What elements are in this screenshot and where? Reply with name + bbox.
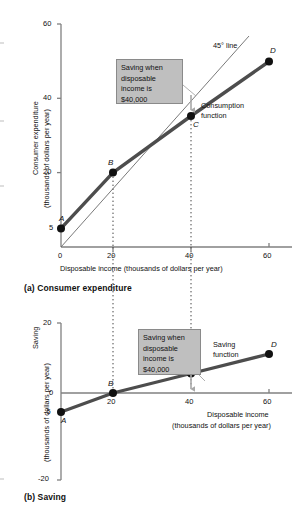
panel-a-consumption-function-label-line2: function: [201, 111, 227, 121]
panel-b-point-label-D: D: [271, 340, 277, 349]
panel-a-annotation-line4: $40,000: [121, 95, 182, 106]
panel-a-xtick-0: 0: [58, 251, 62, 260]
panel-b-saving-function-label-line1: Saving: [213, 340, 235, 350]
panel-b-annotation-box: Saving when disposable income is $40,000: [138, 329, 201, 375]
panel-a-ytick-20: 20: [43, 167, 51, 176]
panel-b-xtick-40: 40: [185, 397, 193, 406]
panel-b-ytick-minus5: -5: [44, 407, 51, 416]
panel-b-point-A: [57, 408, 65, 416]
panel-a-y-axis-label-line2: (thousands of dollars per year): [42, 109, 51, 208]
panel-b-xtick-60: 60: [263, 397, 271, 406]
panel-a-ytick-40: 40: [43, 93, 51, 102]
panel-a-xtick-40: 40: [185, 251, 193, 260]
panel-b-point-D: [265, 350, 273, 358]
panel-a-point-A: [57, 224, 65, 232]
figure-consumption-and-saving: Consumer expenditure (thousands of dolla…: [0, 0, 301, 515]
panel-b-saving-function-label-line2: function: [213, 350, 239, 360]
panel-b-point-label-B: B: [108, 379, 113, 388]
panel-a-annotation-line3: income is: [121, 84, 182, 95]
panel-b-annotation-line4: $40,000: [143, 365, 200, 376]
panel-a-point-B: [109, 169, 117, 177]
panel-a-xtick-20: 20: [107, 251, 115, 260]
panel-a-annotation-box: Saving when disposable income is $40,000: [116, 59, 183, 104]
panel-a-point-label-D: D: [270, 46, 276, 55]
panel-a-point-label-B: B: [108, 158, 113, 167]
panel-a-ytick-5: 5: [49, 223, 53, 232]
panel-b-annotation-line2: disposable: [143, 344, 200, 355]
panel-b-x-axis-label-line2: (thousands of dollars per year): [172, 421, 271, 431]
panel-a-annotation-line2: disposable: [121, 74, 182, 85]
panel-b-ytick-minus20: -20: [38, 474, 49, 483]
panel-b-y-axis-label-line1: Saving: [31, 327, 40, 349]
panel-b-point-label-A: A: [61, 416, 66, 425]
panel-a-y-axis-label-line1: Consumer expenditure: [31, 101, 40, 175]
panel-a-point-D: [265, 58, 273, 66]
panel-a-45-degree-line-label: 45° line: [213, 41, 237, 51]
panel-a-consumption-function-label-line1: Consumption: [201, 101, 244, 111]
panel-b-annotation-line1: Saving when: [143, 333, 200, 344]
panel-a-point-label-C: C: [193, 120, 199, 129]
panel-b-caption: (b) Saving: [24, 492, 66, 502]
page-margin-marks: [0, 43, 4, 479]
panel-a-x-axis-label: Disposable income (thousands of dollars …: [60, 264, 223, 274]
panel-a-point-label-A: A: [59, 214, 64, 223]
panel-a-point-C: [187, 112, 195, 120]
panel-a-annotation-line1: Saving when: [121, 63, 182, 74]
panel-a-xtick-60: 60: [263, 251, 271, 260]
panel-a-caption: (a) Consumer expenditure: [24, 283, 132, 293]
panel-b-x-axis-label-line1: Disposable income: [207, 410, 269, 420]
panel-a-ytick-60: 60: [43, 19, 51, 28]
panel-b-xtick-20: 20: [107, 397, 115, 406]
panel-b-annotation-line3: income is: [143, 354, 200, 365]
panel-b-ytick-20: 20: [43, 318, 51, 327]
panel-b-ytick-0: 0: [49, 388, 53, 397]
panel-b-point-B: [109, 389, 117, 397]
